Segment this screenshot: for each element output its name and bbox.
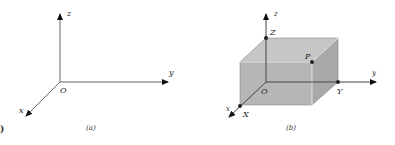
figure-b: z Z P O Y y x X (b) <box>226 10 377 132</box>
figure-a: z y O x (a) ) <box>0 9 174 134</box>
stray-mark: ) <box>0 124 4 134</box>
box-front-face <box>240 62 312 105</box>
x-axis <box>26 82 60 116</box>
caption-b: (b) <box>286 124 296 132</box>
Z-label: Z <box>269 28 276 37</box>
point-Z <box>264 36 268 40</box>
point-P <box>310 60 314 64</box>
x-label: x <box>19 106 24 115</box>
caption-a: (a) <box>86 124 96 132</box>
z-label-b: z <box>273 10 278 18</box>
origin-label: O <box>60 86 67 95</box>
P-label: P <box>304 52 311 61</box>
origin-label-b: O <box>261 87 268 96</box>
X-label: X <box>242 110 249 119</box>
z-label: z <box>66 9 72 18</box>
point-X <box>238 104 242 108</box>
y-label-b: y <box>371 69 377 77</box>
x-label-b: x <box>226 105 230 113</box>
point-Y <box>336 80 340 84</box>
y-label: y <box>168 68 174 77</box>
Y-label: Y <box>337 87 343 96</box>
coordinate-diagrams: z y O x (a) ) z Z P O Y y x X ( <box>0 0 395 145</box>
